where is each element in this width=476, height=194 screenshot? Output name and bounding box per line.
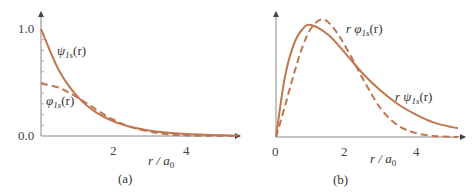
panel-a-caption: (a) [118, 171, 132, 186]
panel-a-psi-curve [41, 29, 238, 136]
panel-a-xtick-4: 4 [183, 143, 190, 158]
panel-a-psi-label: ψ1s(r) [57, 43, 86, 60]
panel-b-xtick-4: 4 [413, 144, 420, 159]
panel-b-xtick-0: 0 [272, 144, 279, 159]
panel-a-ytick-1: 1.0 [18, 21, 34, 36]
panel-b-r-phi-label: r φ1s(r) [346, 21, 383, 38]
figure: 1.0 0.0 2 4 ψ1s(r) φ1s(r) r / a0 (a) 0 2… [0, 0, 476, 194]
panel-b-r-psi-label: r ψ1s(r) [395, 89, 432, 106]
panel-a-xtick-2: 2 [110, 143, 117, 158]
panel-b: 0 2 4 r φ1s(r) r ψ1s(r) r / a0 (b) [272, 12, 465, 187]
panel-b-xlabel: r / a0 [370, 151, 397, 168]
panel-b-r-psi-curve [276, 25, 458, 137]
panel-b-xtick-2: 2 [341, 144, 348, 159]
panel-a-xlabel: r / a0 [148, 153, 175, 170]
panel-a: 1.0 0.0 2 4 ψ1s(r) φ1s(r) r / a0 (a) [18, 12, 240, 186]
panel-a-ytick-0: 0.0 [18, 128, 34, 143]
panel-a-phi-label: φ1s(r) [46, 93, 74, 110]
panel-b-caption: (b) [333, 172, 348, 187]
